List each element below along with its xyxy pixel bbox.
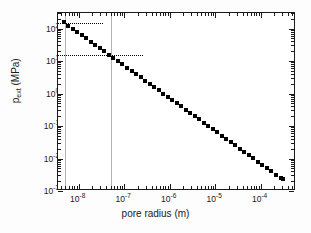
data-point — [256, 160, 260, 164]
x-axis-tick — [160, 186, 161, 189]
y-axis-tick — [58, 41, 61, 42]
dotted-line-lower — [58, 55, 143, 56]
x-axis-tick — [274, 13, 275, 16]
data-point — [265, 166, 269, 170]
x-axis-tick — [282, 13, 283, 16]
x-axis-tick — [79, 184, 80, 189]
y-axis-tick — [291, 51, 294, 52]
x-axis-tick — [146, 186, 147, 189]
data-point — [120, 62, 124, 66]
y-axis-tick — [58, 162, 61, 163]
y-axis-tick — [291, 32, 294, 33]
y-axis-tick — [58, 131, 61, 132]
data-point — [80, 33, 84, 37]
y-axis-tick — [291, 30, 294, 31]
y-axis-tick — [291, 74, 294, 75]
x-axis-tick — [69, 13, 70, 16]
y-axis-tick — [291, 162, 294, 163]
y-axis-tick — [291, 110, 294, 111]
data-point — [89, 40, 93, 44]
data-point — [93, 43, 97, 47]
y-axis-tick — [291, 95, 294, 96]
y-axis-title: pext (MPa) — [10, 31, 22, 131]
y-axis-tick — [58, 32, 61, 33]
x-axis-tick — [215, 184, 216, 189]
x-axis-tick — [197, 186, 198, 189]
x-axis-tick — [292, 186, 293, 189]
y-axis-tick — [291, 71, 294, 72]
x-axis-tick — [114, 13, 115, 16]
x-axis-tick — [163, 13, 164, 16]
x-axis-tick — [170, 13, 171, 18]
data-point — [274, 173, 278, 177]
x-axis-tick — [261, 13, 262, 18]
data-point — [251, 156, 255, 160]
y-axis-tick — [291, 106, 294, 107]
x-axis-tick — [256, 13, 257, 16]
data-point — [166, 95, 170, 99]
data-point — [84, 36, 88, 40]
x-axis-tick — [100, 13, 101, 16]
x-axis-tick — [168, 13, 169, 16]
y-axis-title-base: p — [10, 98, 21, 104]
y-axis-tick — [58, 38, 61, 39]
y-axis-tick — [58, 13, 61, 14]
x-axis-tick — [254, 186, 255, 189]
data-point — [247, 153, 251, 157]
y-axis-tick — [291, 160, 294, 161]
x-axis-tick — [213, 13, 214, 16]
y-axis-tick — [58, 71, 61, 72]
x-tick-label: 10-6 — [161, 192, 176, 204]
y-axis-tick — [58, 106, 61, 107]
data-point — [143, 79, 147, 83]
y-axis-tick — [58, 66, 61, 67]
y-axis-tick — [291, 64, 294, 65]
x-axis-tick — [156, 186, 157, 189]
x-axis-tick — [247, 186, 248, 189]
y-axis-tick — [291, 166, 294, 167]
y-axis-tick — [58, 62, 61, 63]
x-axis-tick — [124, 184, 125, 189]
x-axis-tick — [211, 186, 212, 189]
y-axis-tick — [58, 191, 63, 192]
data-point — [238, 147, 242, 151]
y-axis-tick — [58, 143, 61, 144]
x-axis-tick — [77, 186, 78, 189]
x-axis-tick — [65, 186, 66, 189]
x-axis-tick — [160, 13, 161, 16]
x-axis-tick — [77, 13, 78, 16]
y-axis-tick — [58, 160, 61, 161]
y-axis-tick — [291, 99, 294, 100]
y-axis-tick — [58, 136, 61, 137]
x-axis-tick — [282, 186, 283, 189]
plot-inner — [58, 13, 294, 189]
x-axis-tick — [274, 186, 275, 189]
y-axis-tick — [291, 129, 294, 130]
x-axis-tick — [170, 184, 171, 189]
y-axis-tick — [58, 19, 61, 20]
y-axis-tick — [291, 97, 294, 98]
y-axis-tick — [58, 126, 63, 127]
x-axis-tick — [183, 186, 184, 189]
y-axis-tick — [291, 66, 294, 67]
x-axis-tick — [261, 184, 262, 189]
x-axis-tick — [165, 186, 166, 189]
y-axis-tick — [291, 38, 294, 39]
x-tick-label: 10-7 — [116, 192, 131, 204]
y-axis-tick — [291, 168, 294, 169]
y-axis-tick — [58, 34, 61, 35]
y-axis-tick — [58, 97, 61, 98]
data-point — [281, 177, 285, 181]
x-axis-tick — [122, 13, 123, 16]
x-axis-tick — [205, 186, 206, 189]
y-axis-tick — [58, 99, 61, 100]
y-axis-tick — [289, 61, 294, 62]
x-axis-tick — [197, 13, 198, 16]
x-axis-tick — [229, 186, 230, 189]
x-axis-tick — [92, 186, 93, 189]
y-axis-tick — [289, 126, 294, 127]
x-axis-tick — [168, 186, 169, 189]
x-axis-tick — [152, 186, 153, 189]
x-tick-label: 10-4 — [252, 192, 267, 204]
x-axis-tick — [124, 13, 125, 18]
